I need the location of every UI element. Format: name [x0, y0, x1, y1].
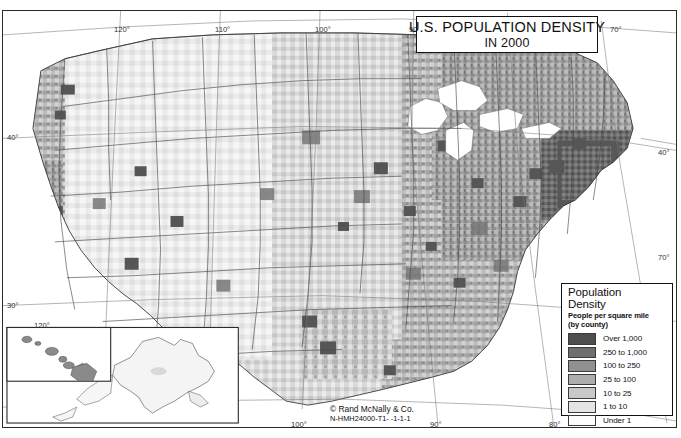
map-credit: © Rand McNally & Co. N-HMH24000-T1- -1-1… [330, 404, 414, 423]
legend-swatch-icon [568, 374, 596, 386]
graticule-label-right-70: 70° [658, 253, 669, 262]
legend-swatch-icon [568, 401, 596, 413]
legend-item-10-to-25: 10 to 25 [568, 386, 667, 400]
legend-label: Under 1 [603, 416, 631, 425]
legend-label: 25 to 100 [603, 375, 636, 384]
page-title: U.S. POPULATION DENSITY [409, 20, 605, 35]
legend-item-250-to-1000: 250 to 1,000 [568, 346, 667, 360]
legend-swatch-icon [568, 387, 596, 399]
legend-swatch-icon [568, 415, 596, 427]
legend-swatch-icon [568, 347, 596, 359]
legend-title-line2: Density [568, 299, 667, 311]
legend-item-under-1: Under 1 [568, 414, 667, 428]
graticule-label-top-70: 70° [610, 25, 621, 34]
graticule-label-bottom-90: 90° [430, 420, 441, 429]
map-figure: 120° 110° 100° 90° 70° 40° 30° 40° 70° 3… [0, 0, 681, 438]
legend-label: 1 to 10 [603, 402, 627, 411]
map-code-text: N-HMH24000-T1- -1-1-1 [330, 415, 414, 424]
legend-label: 10 to 25 [603, 389, 631, 398]
graticule-label-top-120: 120° [114, 25, 130, 34]
map-title-subtitle: IN 2000 [484, 36, 529, 50]
graticule-label-top-110: 110° [215, 25, 230, 34]
graticule-label-right-40: 40° [658, 148, 669, 157]
graticule-label-top-100: 100° [315, 25, 331, 34]
legend-label: 100 to 250 [603, 361, 640, 370]
map-title-box: U.S. POPULATION DENSITY IN 2000 [416, 16, 598, 53]
legend-subtitle-line2: (by county) [568, 321, 667, 330]
legend-item-over-1000: Over 1,000 [568, 332, 667, 346]
legend-title-line1: Population [568, 287, 667, 299]
map-legend: Population Density People per square mil… [561, 283, 673, 416]
graticule-label-inset-120: 120° [34, 321, 50, 330]
legend-item-25-to-100: 25 to 100 [568, 373, 667, 387]
legend-item-1-to-10: 1 to 10 [568, 400, 667, 414]
legend-item-100-to-250: 100 to 250 [568, 359, 667, 373]
legend-swatch-icon [568, 360, 596, 372]
legend-entries: Over 1,000 250 to 1,000 100 to 250 25 to… [568, 332, 667, 427]
graticule-label-left-30: 30° [7, 301, 18, 310]
legend-swatch-icon [568, 333, 596, 345]
graticule-label-left-40: 40° [7, 133, 18, 142]
graticule-label-bottom-80: 80° [549, 420, 560, 429]
hawaii-inset [7, 327, 111, 381]
graticule-label-bottom-100: 100° [291, 420, 307, 429]
legend-label: 250 to 1,000 [603, 348, 647, 357]
legend-label: Over 1,000 [603, 334, 642, 343]
copyright-text: © Rand McNally & Co. [330, 404, 414, 415]
